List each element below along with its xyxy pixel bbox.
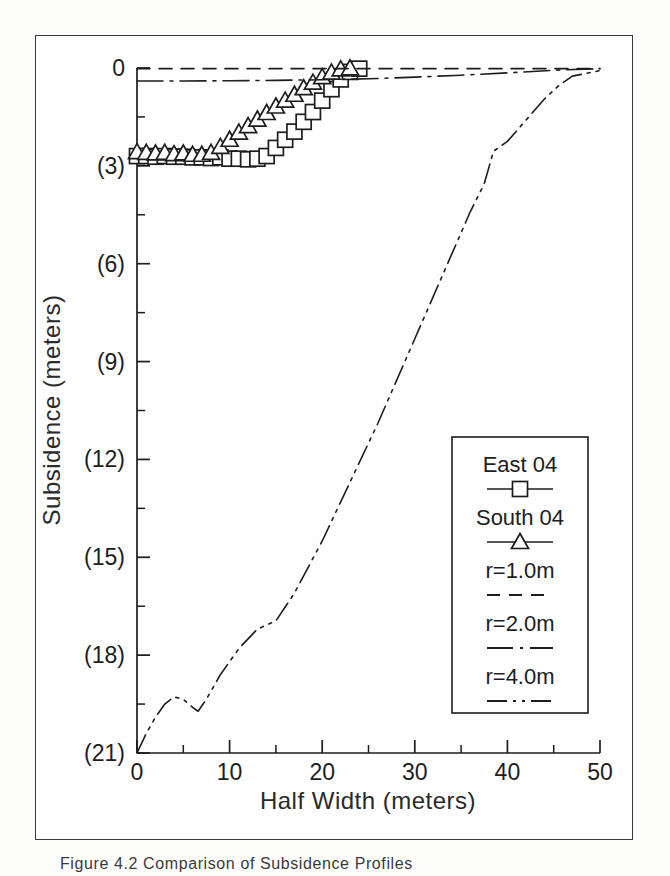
y-tick-label: (15) bbox=[84, 544, 125, 570]
series-r-2-0m bbox=[137, 69, 600, 81]
x-tick-label: 20 bbox=[309, 759, 335, 785]
marker-square bbox=[513, 482, 528, 497]
y-tick-label: 0 bbox=[112, 55, 125, 81]
x-tick-label: 40 bbox=[495, 759, 521, 785]
legend-label: East 04 bbox=[483, 452, 558, 477]
x-axis-tick-labels: 01020304050 bbox=[131, 759, 613, 785]
subsidence-chart: 0(3)(6)(9)(12)(15)(18)(21) 01020304050 H… bbox=[0, 0, 670, 876]
legend-label: r=4.0m bbox=[485, 664, 554, 689]
y-tick-label: (3) bbox=[97, 153, 125, 179]
x-tick-label: 50 bbox=[587, 759, 613, 785]
legend-label: South 04 bbox=[476, 505, 564, 530]
series-line bbox=[137, 69, 600, 81]
y-tick-label: (21) bbox=[84, 740, 125, 766]
figure-page: 0(3)(6)(9)(12)(15)(18)(21) 01020304050 H… bbox=[0, 0, 670, 876]
y-tick-label: (6) bbox=[97, 251, 125, 277]
legend-items: East 04South 04r=1.0mr=2.0mr=4.0m bbox=[476, 452, 564, 701]
x-tick-label: 10 bbox=[217, 759, 243, 785]
y-axis-ticks bbox=[137, 68, 150, 753]
y-tick-label: (18) bbox=[84, 642, 125, 668]
y-axis-tick-labels: 0(3)(6)(9)(12)(15)(18)(21) bbox=[84, 55, 125, 766]
legend-label: r=2.0m bbox=[485, 611, 554, 636]
y-tick-label: (9) bbox=[97, 349, 125, 375]
y-axis-title: Subsidence (meters) bbox=[38, 295, 65, 526]
chart-legend: East 04South 04r=1.0mr=2.0mr=4.0m bbox=[452, 437, 588, 713]
x-axis-title: Half Width (meters) bbox=[260, 787, 476, 814]
x-tick-label: 0 bbox=[131, 759, 144, 785]
y-tick-label: (12) bbox=[84, 446, 125, 472]
x-tick-label: 30 bbox=[402, 759, 428, 785]
legend-label: r=1.0m bbox=[485, 558, 554, 583]
figure-caption: Figure 4.2 Comparison of Subsidence Prof… bbox=[60, 855, 620, 876]
x-axis-ticks bbox=[137, 740, 600, 753]
series-south-04 bbox=[129, 60, 359, 161]
